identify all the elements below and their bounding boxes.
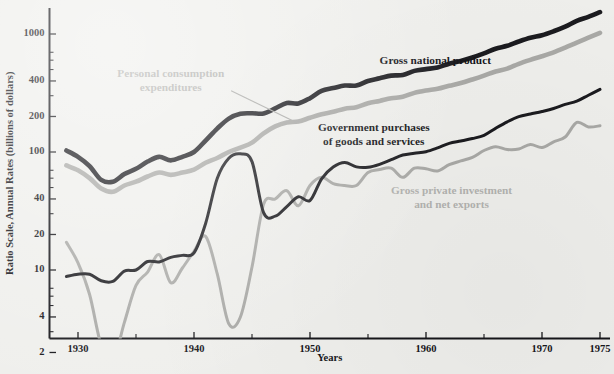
y-tick-label-10: 10 (34, 263, 45, 274)
series-label-line: Gross private investment (391, 184, 512, 196)
series-label-government-purchases-of-goods-and-services: Government purchasesof goods and service… (318, 121, 430, 147)
x-axis-title: Years (317, 352, 342, 363)
y-tick-label-40: 40 (34, 192, 45, 203)
series-line-gross-national-product (66, 12, 600, 182)
y-axis-title: Ratio Scale, Annual Rates (billions of d… (4, 71, 16, 275)
series-label-personal-consumption-expenditures: Personal consumptionexpenditures (117, 67, 225, 93)
series-label-line: expenditures (140, 81, 203, 93)
y-tick-label-20: 20 (34, 228, 45, 239)
y-tick-label-400: 400 (29, 74, 45, 85)
x-tick-label-1930: 1930 (68, 343, 89, 354)
series-label-line: Gross national product (380, 54, 492, 66)
x-tick-label-1970: 1970 (532, 343, 553, 354)
y-tick-label-200: 200 (29, 110, 45, 121)
series-line-gross-private-investment-and-net-exports (66, 122, 600, 362)
y-tick-label-4: 4 (39, 310, 45, 321)
series-label-gross-private-investment-and-net-exports: Gross private investmentand net exports (391, 184, 512, 210)
economic-indicators-chart: 1000400200100402010421930194019501960197… (0, 0, 614, 374)
plot-area (66, 12, 600, 362)
series-label-line: Personal consumption (117, 67, 225, 79)
series-label-line: Government purchases (318, 121, 430, 133)
series-label-line: of goods and services (323, 135, 425, 147)
series-label-gross-national-product: Gross national product (380, 54, 492, 66)
y-tick-label-2: 2 (39, 346, 44, 357)
x-tick-label-1975: 1975 (590, 343, 611, 354)
series-line-government-purchases-of-goods-and-services (66, 89, 600, 282)
x-tick-label-1960: 1960 (416, 343, 437, 354)
x-tick-label-1940: 1940 (184, 343, 205, 354)
y-tick-label-1000: 1000 (24, 27, 45, 38)
series-label-line: and net exports (414, 198, 489, 210)
y-tick-label-100: 100 (29, 145, 45, 156)
chart-canvas: 1000400200100402010421930194019501960197… (0, 0, 614, 374)
